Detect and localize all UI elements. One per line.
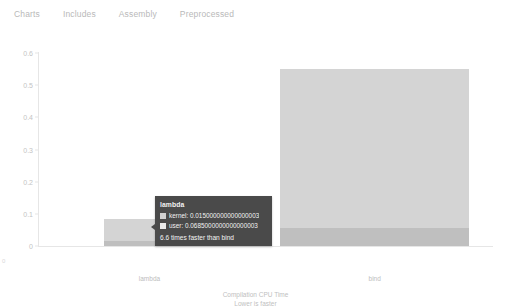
y-tick-label: 0 <box>29 243 33 250</box>
y-tick-label: 0.5 <box>23 82 33 89</box>
nav-item-includes[interactable]: Includes <box>63 9 96 19</box>
y-tick-mark <box>35 53 38 54</box>
axis-title-primary: Compilation CPU Time <box>0 290 511 299</box>
chart-tooltip: lambda kernel: 0.015000000000000003 user… <box>155 196 272 246</box>
tooltip-row-kernel: kernel: 0.015000000000000003 <box>160 211 267 220</box>
bar-chart: 00.10.20.30.40.50.6 lambdabind 0 Compila… <box>0 28 511 298</box>
bar-bind[interactable] <box>280 69 469 246</box>
y-axis-title: 0 <box>2 258 5 264</box>
legend-swatch-kernel-icon <box>160 213 166 219</box>
tooltip-row-user-text: user: 0.0685000000000000003 <box>169 221 258 230</box>
y-tick-label: 0.3 <box>23 146 33 153</box>
y-tick-mark <box>35 149 38 150</box>
x-axis-line <box>38 246 493 247</box>
nav-item-assembly[interactable]: Assembly <box>119 9 157 19</box>
y-tick-label: 0.4 <box>23 114 33 121</box>
legend-swatch-user-icon <box>160 223 166 229</box>
category-label-lambda: lambda <box>139 275 160 282</box>
y-tick-label: 0.6 <box>23 50 33 57</box>
y-tick-mark <box>35 117 38 118</box>
axis-title-block: Compilation CPU Time Lower is faster <box>0 290 511 308</box>
nav-item-preprocessed[interactable]: Preprocessed <box>180 9 234 19</box>
tooltip-row-user: user: 0.0685000000000000003 <box>160 221 267 230</box>
y-tick-mark <box>35 85 38 86</box>
y-tick-mark <box>35 246 38 247</box>
tooltip-title: lambda <box>160 200 267 209</box>
top-navigation-bar: Charts Includes Assembly Preprocessed <box>0 0 511 28</box>
tooltip-footer: 6.6 times faster than bind <box>160 233 267 242</box>
tooltip-pointer-icon <box>151 224 155 230</box>
bar-segment-kernel[interactable] <box>280 228 469 246</box>
y-tick-mark <box>35 181 38 182</box>
y-tick-label: 0.2 <box>23 178 33 185</box>
y-tick-label: 0.1 <box>23 210 33 217</box>
axis-title-secondary: Lower is faster <box>0 299 511 308</box>
tooltip-row-kernel-text: kernel: 0.015000000000000003 <box>169 211 259 220</box>
nav-item-charts[interactable]: Charts <box>14 9 40 19</box>
y-tick-mark <box>35 213 38 214</box>
bar-segment-user[interactable] <box>280 69 469 228</box>
category-label-bind: bind <box>369 275 381 282</box>
